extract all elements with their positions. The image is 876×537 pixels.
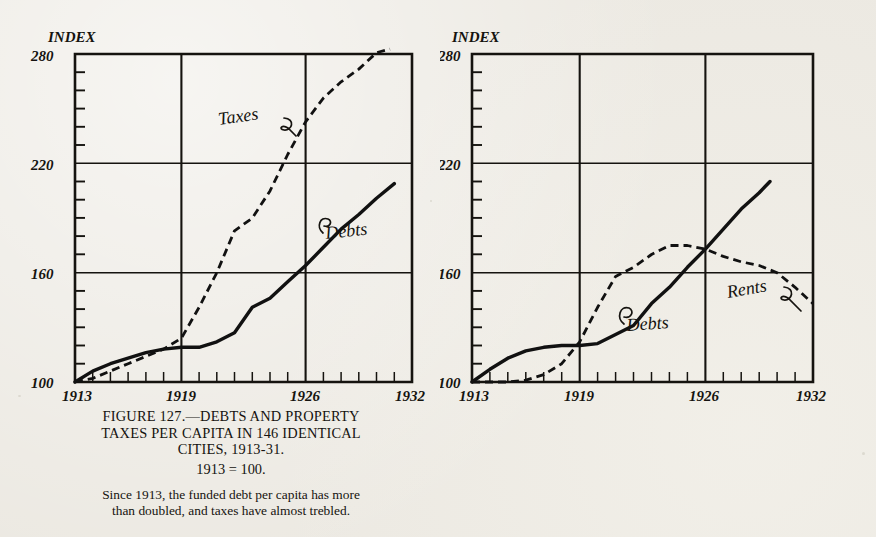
x-tick-label-1932: 1932 bbox=[796, 388, 827, 404]
paper-speck bbox=[18, 395, 21, 397]
x-tick-label-1913: 1913 bbox=[62, 388, 93, 404]
annotation-taxes: Taxes bbox=[217, 104, 296, 136]
y-tick-label-160: 160 bbox=[440, 266, 461, 282]
plot-frame bbox=[75, 54, 412, 382]
x-tick-label-1926: 1926 bbox=[689, 388, 720, 404]
y-tick-label-220: 220 bbox=[30, 157, 54, 173]
y-tick-label-280: 280 bbox=[440, 48, 461, 64]
series-debts-line bbox=[75, 184, 394, 382]
figure-128-chart: .frame2{fill:none;stroke:#15130f;stroke-… bbox=[440, 0, 876, 405]
paper-speck bbox=[862, 452, 865, 455]
y-tick-label-160: 160 bbox=[31, 266, 54, 282]
annotation-rents: Rents bbox=[724, 275, 801, 311]
y-axis-ticks bbox=[472, 72, 482, 364]
svg-text:Taxes: Taxes bbox=[217, 104, 260, 129]
x-axis-ticks bbox=[93, 372, 395, 382]
figure-127-caption-note: Since 1913, the funded debt per capita h… bbox=[34, 487, 428, 519]
y-tick-label-280: 280 bbox=[30, 48, 54, 64]
figure-127-chart: .frame{fill:none;stroke:#15130f;stroke-w… bbox=[0, 0, 440, 405]
x-tick-label-1919: 1919 bbox=[166, 388, 197, 404]
x-tick-label-1913: 1913 bbox=[459, 388, 490, 404]
svg-text:Rents: Rents bbox=[724, 275, 768, 302]
y-tick-label-100: 100 bbox=[31, 375, 54, 391]
figure-127-caption: FIGURE 127.—DEBTS AND PROPERTY TAXES PER… bbox=[34, 408, 428, 519]
y-axis-title: INDEX bbox=[451, 29, 501, 45]
paper-speck bbox=[430, 200, 432, 202]
y-tick-label-100: 100 bbox=[440, 375, 461, 391]
y-axis-ticks bbox=[75, 72, 85, 364]
y-axis-title: INDEX bbox=[47, 29, 97, 45]
x-tick-label-1926: 1926 bbox=[290, 388, 321, 404]
y-tick-label-220: 220 bbox=[440, 157, 461, 173]
x-tick-label-1919: 1919 bbox=[564, 388, 595, 404]
annotation-debts: Debts bbox=[319, 218, 368, 243]
figure-127-caption-title: FIGURE 127.—DEBTS AND PROPERTY TAXES PER… bbox=[34, 408, 428, 458]
x-axis-ticks bbox=[490, 372, 795, 382]
figure-127-panel: .frame{fill:none;stroke:#15130f;stroke-w… bbox=[0, 0, 440, 537]
x-tick-label-1932: 1932 bbox=[395, 388, 426, 404]
figure-127-caption-base: 1913 = 100. bbox=[34, 461, 428, 478]
page-background: .frame{fill:none;stroke:#15130f;stroke-w… bbox=[0, 0, 876, 537]
figure-128-panel: .frame2{fill:none;stroke:#15130f;stroke-… bbox=[440, 0, 876, 537]
